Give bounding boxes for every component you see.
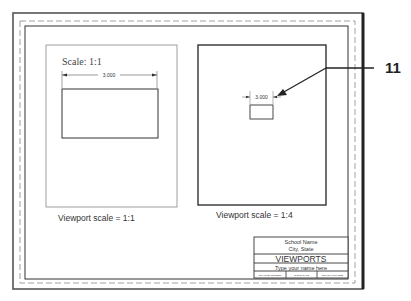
right-viewport[interactable]: 3.000 bbox=[198, 45, 326, 205]
dim-value: 3.000 bbox=[103, 72, 116, 78]
dim-arrow-left bbox=[62, 74, 67, 77]
check-date-cell: CHECK DATE bbox=[294, 274, 310, 277]
callout-number: 11 bbox=[385, 59, 401, 76]
city-state: City, State bbox=[289, 246, 314, 252]
left-viewport[interactable]: Scale: 1:1 3.000 bbox=[46, 45, 177, 207]
drawing-sheet: Scale: 1:1 3.000 Viewport scale = 1:1 3.… bbox=[0, 0, 411, 301]
dim-arrow-left bbox=[246, 96, 250, 98]
right-viewport-caption: Viewport scale = 1:4 bbox=[216, 210, 293, 220]
leader-arrowhead bbox=[277, 89, 287, 96]
dim-arrow-right bbox=[152, 74, 157, 77]
dim-arrow-right bbox=[273, 96, 277, 98]
left-viewport-caption: Viewport scale = 1:1 bbox=[58, 213, 135, 223]
object-rectangle[interactable] bbox=[62, 89, 158, 138]
scale-note: Scale: 1:1 bbox=[62, 56, 102, 67]
right-viewport-frame[interactable] bbox=[198, 45, 326, 205]
school-name: School Name bbox=[284, 239, 317, 245]
left-viewport-frame[interactable] bbox=[46, 45, 177, 207]
scale-cell: SCALE: FULL SIZE bbox=[322, 274, 343, 277]
drawing-title: VIEWPORTS bbox=[276, 254, 327, 264]
dim-value: 3.000 bbox=[255, 94, 268, 100]
name-field[interactable]: Type your name here bbox=[275, 265, 327, 271]
object-rectangle[interactable] bbox=[250, 105, 273, 119]
drawing-number-cell: DRAWING NUMBER bbox=[259, 274, 282, 277]
